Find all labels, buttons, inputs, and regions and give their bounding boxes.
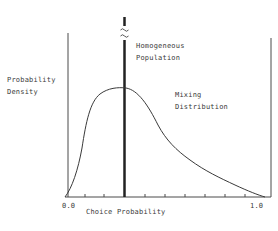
mixing-distribution-curve (65, 88, 265, 197)
spike-annotation-line2: Population (136, 53, 180, 64)
x-max-label: 1.0 (250, 201, 263, 212)
y-axis-label-line2: Density (7, 87, 38, 98)
spike-annotation-line1: Homogeneous (136, 41, 185, 52)
x-min-label: 0.0 (62, 201, 75, 212)
x-axis-label: Choice Probability (86, 207, 165, 218)
curve-annotation-line1: Mixing (175, 90, 202, 101)
figure: Probability Density Homogeneous Populati… (0, 0, 278, 231)
curve-annotation-line2: Distribution (175, 102, 228, 113)
axis-break-icon (121, 29, 129, 38)
y-axis-label-line1: Probability (7, 75, 56, 86)
chart-canvas (0, 0, 278, 231)
